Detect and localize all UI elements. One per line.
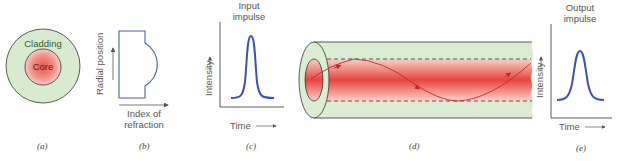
caption-b: (b) [139,141,150,151]
input-title-1: Input [238,0,259,11]
radial-position-label: Radial position [94,33,105,95]
caption-c: (c) [246,141,256,151]
output-intensity-label: Intensity [534,62,545,98]
index-label-1: Index of [127,108,161,119]
panel-c-input-impulse: Input impulse Intensity Time (c) [203,0,284,151]
input-intensity-label: Intensity [203,60,214,96]
output-time-label: Time [559,121,580,132]
panel-d-fiber: (d) [299,42,533,151]
fiber-end-core [305,59,323,101]
caption-e: (e) [576,143,586,153]
index-label-2: refraction [124,119,164,130]
output-title-1: Output [566,2,595,13]
panel-e-output-impulse: Output impulse Intensity Time (e) [534,2,612,153]
fiber-core [314,59,532,101]
caption-a: (a) [37,141,48,151]
cladding-label: Cladding [24,38,62,49]
input-pulse-curve [231,36,274,98]
input-axes [220,22,284,107]
index-profile-curve [119,31,157,98]
panel-b-index-profile: Radial position Index of refraction (b) [94,31,168,151]
caption-d: (d) [409,141,420,151]
output-pulse-curve [557,51,604,100]
input-title-2: impulse [233,11,266,22]
core-label: Core [33,61,54,72]
input-time-label: Time [230,120,251,131]
panel-a-cross-section: Cladding Core (a) [6,29,80,151]
output-axes [551,24,612,118]
output-title-2: impulse [564,13,597,24]
